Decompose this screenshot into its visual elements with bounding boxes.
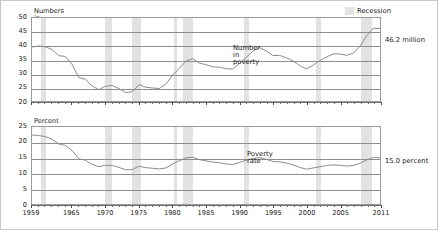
x-tick-minor xyxy=(354,102,355,104)
x-tick-minor xyxy=(260,205,261,207)
x-tick-label: 1980 xyxy=(157,210,187,217)
x-tick-minor xyxy=(226,205,227,207)
x-tick-minor xyxy=(179,205,180,207)
bottom-plot-area xyxy=(31,126,381,205)
x-tick-minor xyxy=(51,205,52,207)
x-tick-major xyxy=(105,205,106,208)
x-tick-minor xyxy=(267,205,268,207)
x-tick-minor xyxy=(92,102,93,104)
x-tick-minor xyxy=(193,102,194,104)
x-tick-minor xyxy=(38,205,39,207)
x-tick-major xyxy=(307,205,308,208)
recession-legend: Recession xyxy=(345,7,391,15)
x-tick-label: 2000 xyxy=(292,210,322,217)
x-tick-minor xyxy=(246,205,247,207)
x-tick-minor xyxy=(219,102,220,104)
x-tick-minor xyxy=(354,205,355,207)
x-tick-minor xyxy=(145,102,146,104)
x-tick-major xyxy=(172,102,173,105)
x-tick-minor xyxy=(334,102,335,104)
x-tick-minor xyxy=(280,205,281,207)
x-tick-label: 1965 xyxy=(56,210,86,217)
x-tick-major xyxy=(381,205,382,208)
x-tick-minor xyxy=(193,205,194,207)
x-tick-minor xyxy=(65,205,66,207)
x-tick-minor xyxy=(327,205,328,207)
series-line-number-in-poverty xyxy=(32,18,380,101)
x-tick-major xyxy=(105,102,106,105)
x-tick-minor xyxy=(374,205,375,207)
x-tick-minor xyxy=(85,102,86,104)
x-tick-minor xyxy=(233,205,234,207)
x-tick-minor xyxy=(65,102,66,104)
x-tick-minor xyxy=(112,102,113,104)
x-tick-minor xyxy=(213,205,214,207)
y-tick-label: 25 xyxy=(5,84,27,91)
x-tick-minor xyxy=(119,102,120,104)
bottom-series-label: Poverty rate xyxy=(247,151,273,165)
x-tick-major xyxy=(381,102,382,105)
x-tick-minor xyxy=(199,102,200,104)
x-tick-minor xyxy=(314,102,315,104)
x-tick-major xyxy=(273,205,274,208)
y-tick-label: 45 xyxy=(5,28,27,35)
x-tick-minor xyxy=(320,205,321,207)
x-tick-minor xyxy=(374,102,375,104)
x-tick-minor xyxy=(300,205,301,207)
x-tick-minor xyxy=(260,102,261,104)
x-tick-minor xyxy=(300,102,301,104)
x-tick-minor xyxy=(125,102,126,104)
x-tick-minor xyxy=(119,205,120,207)
x-tick-minor xyxy=(98,102,99,104)
x-tick-minor xyxy=(253,205,254,207)
bottom-axis-title: Percent xyxy=(34,118,59,125)
x-tick-minor xyxy=(125,205,126,207)
x-tick-minor xyxy=(145,205,146,207)
top-end-value-label: 46.2 million xyxy=(385,37,425,44)
series-line-poverty-rate xyxy=(32,127,380,204)
x-tick-major xyxy=(240,102,241,105)
x-tick-minor xyxy=(368,102,369,104)
x-tick-major xyxy=(240,205,241,208)
top-x-ticks xyxy=(31,102,381,105)
x-tick-minor xyxy=(233,102,234,104)
x-tick-minor xyxy=(112,205,113,207)
x-tick-minor xyxy=(199,205,200,207)
top-plot-area xyxy=(31,17,381,102)
x-tick-minor xyxy=(166,102,167,104)
x-tick-minor xyxy=(294,102,295,104)
x-tick-minor xyxy=(294,205,295,207)
x-tick-major xyxy=(139,102,140,105)
x-tick-label: 1975 xyxy=(124,210,154,217)
y-tick-label: 40 xyxy=(5,42,27,49)
x-tick-minor xyxy=(51,102,52,104)
x-tick-minor xyxy=(246,102,247,104)
x-tick-minor xyxy=(267,102,268,104)
x-tick-minor xyxy=(280,102,281,104)
x-tick-minor xyxy=(98,205,99,207)
x-tick-minor xyxy=(361,102,362,104)
y-tick-label: 10 xyxy=(5,170,27,177)
x-tick-major xyxy=(71,205,72,208)
x-tick-major xyxy=(206,205,207,208)
x-tick-minor xyxy=(38,102,39,104)
x-tick-major xyxy=(71,102,72,105)
x-tick-minor xyxy=(159,205,160,207)
y-tick-label: 15 xyxy=(5,154,27,161)
x-tick-minor xyxy=(287,102,288,104)
x-tick-minor xyxy=(159,102,160,104)
x-tick-major xyxy=(206,102,207,105)
x-tick-major xyxy=(341,205,342,208)
x-tick-minor xyxy=(186,102,187,104)
recession-swatch-icon xyxy=(345,7,354,15)
poverty-figure: Recession Numbers in millions 2025303540… xyxy=(0,0,438,230)
x-tick-major xyxy=(139,205,140,208)
x-tick-minor xyxy=(44,102,45,104)
x-tick-minor xyxy=(85,205,86,207)
x-tick-major xyxy=(31,102,32,105)
x-tick-minor xyxy=(152,102,153,104)
y-tick-label: 20 xyxy=(5,138,27,145)
x-tick-major xyxy=(172,205,173,208)
y-tick-label: 35 xyxy=(5,56,27,63)
x-tick-minor xyxy=(186,205,187,207)
